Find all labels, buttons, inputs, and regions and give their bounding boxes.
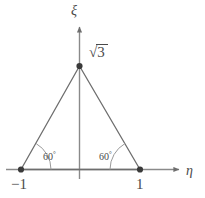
angle-arc-right <box>110 144 125 170</box>
angle-left-value: 60 <box>43 151 53 162</box>
tick-label-minus-one: −1 <box>11 177 27 192</box>
angle-label-left: 60° <box>43 151 56 162</box>
apex-sqrt3-label: √3 <box>89 44 108 60</box>
angle-label-right: 60° <box>99 151 112 162</box>
vertex-dot-apex <box>76 63 82 69</box>
degree-symbol-left: ° <box>53 150 56 158</box>
eta-axis-label: η <box>186 164 193 178</box>
equilateral-triangle <box>21 66 140 170</box>
radicand-value: 3 <box>96 44 108 60</box>
vertex-dot-right <box>137 166 143 172</box>
xi-axis-label: ξ <box>71 4 77 18</box>
angle-right-value: 60 <box>99 151 109 162</box>
vertex-dot-left <box>18 166 24 172</box>
geometry-figure: ξ η √3 −1 1 60° 60° <box>0 0 205 198</box>
tick-label-one: 1 <box>136 177 144 192</box>
figure-canvas <box>0 0 205 198</box>
degree-symbol-right: ° <box>109 150 112 158</box>
